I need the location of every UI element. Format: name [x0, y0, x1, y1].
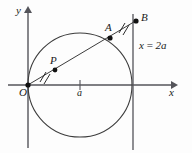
x-axis-label: x — [169, 87, 174, 98]
line-equation-eq: = — [147, 39, 153, 51]
point-a-label: A — [105, 22, 112, 33]
point-p-label: P — [50, 55, 57, 66]
figure-canvas — [0, 0, 192, 153]
y-axis-label: y — [16, 5, 21, 16]
point-a-dot — [107, 35, 112, 40]
origin-label: O — [19, 87, 27, 98]
point-b-dot — [133, 18, 138, 23]
geometry-figure: y x O a A B P x = 2a — [0, 0, 192, 153]
line-equation-lhs: x — [139, 39, 144, 51]
point-b-label: B — [141, 12, 148, 23]
x-axis-tick-label-a: a — [77, 88, 82, 98]
double-tick-mark-icon-near-origin — [40, 72, 50, 84]
line-equation-label: x = 2a — [139, 40, 167, 51]
point-p-dot — [53, 68, 58, 73]
line-equation-rhs: 2a — [156, 39, 167, 51]
arrow-up-icon — [24, 6, 32, 13]
double-tick-mark-icon-near-b — [119, 23, 129, 35]
